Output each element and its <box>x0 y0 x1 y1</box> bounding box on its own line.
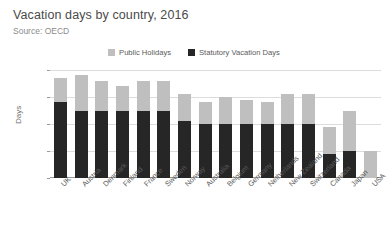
legend-swatch-public-holidays <box>108 49 115 56</box>
bar-segment-statutory-vacation-days[interactable] <box>54 102 67 178</box>
bar-group[interactable] <box>174 70 195 178</box>
x-axis-label-slot: New Zealand <box>278 180 299 226</box>
bar-segment-public-holidays[interactable] <box>137 81 150 111</box>
y-axis-tick-mark <box>47 178 50 179</box>
bar-group[interactable] <box>340 70 361 178</box>
x-axis-label-slot: France <box>133 180 154 226</box>
x-axis-label-slot: Belgium <box>216 180 237 226</box>
legend-item-statutory-vacation-days[interactable]: Statutory Vacation Days <box>188 48 280 57</box>
bar-segment-public-holidays[interactable] <box>199 102 212 124</box>
chart-legend: Public Holidays Statutory Vacation Days <box>0 48 388 57</box>
x-axis-label-slot: UK <box>50 180 71 226</box>
bar-segment-public-holidays[interactable] <box>343 111 356 152</box>
bar-group[interactable] <box>71 70 92 178</box>
bar-segment-public-holidays[interactable] <box>75 75 88 110</box>
x-axis-label-slot: Finland <box>112 180 133 226</box>
chart-title: Vacation days by country, 2016 <box>13 8 189 22</box>
y-axis-title: Days <box>14 106 23 124</box>
bar-group[interactable] <box>195 70 216 178</box>
x-axis-label-slot: Netherlands <box>257 180 278 226</box>
bar-segment-public-holidays[interactable] <box>240 100 253 124</box>
stacked-bar[interactable] <box>137 81 150 178</box>
x-axis-labels: UKAustriaDenmarkFinlandFranceSwedenNorwa… <box>50 180 381 226</box>
x-axis-label-slot: Japan <box>340 180 361 226</box>
vacation-days-chart: Vacation days by country, 2016 Source: O… <box>0 0 388 228</box>
bar-segment-public-holidays[interactable] <box>157 81 170 111</box>
x-axis-label-slot: Norway <box>174 180 195 226</box>
legend-swatch-statutory-vacation-days <box>188 49 195 56</box>
bar-group[interactable] <box>216 70 237 178</box>
stacked-bar[interactable] <box>75 75 88 178</box>
bar-group[interactable] <box>360 70 381 178</box>
bar-group[interactable] <box>153 70 174 178</box>
chart-source-subtitle: Source: OECD <box>13 26 69 36</box>
bar-segment-public-holidays[interactable] <box>54 78 67 102</box>
x-axis-label-slot: Denmark <box>91 180 112 226</box>
x-axis-label-slot: Switzerland <box>298 180 319 226</box>
bar-segment-public-holidays[interactable] <box>116 86 129 110</box>
bar-segment-public-holidays[interactable] <box>219 97 232 124</box>
bar-segment-public-holidays[interactable] <box>281 94 294 124</box>
x-axis-label-slot: Austria <box>71 180 92 226</box>
bar-group[interactable] <box>236 70 257 178</box>
bar-group[interactable] <box>50 70 71 178</box>
bar-segment-statutory-vacation-days[interactable] <box>75 111 88 179</box>
bar-segment-public-holidays[interactable] <box>323 127 336 154</box>
x-axis-label-slot: Canada <box>319 180 340 226</box>
bar-segment-public-holidays[interactable] <box>178 94 191 121</box>
legend-item-public-holidays[interactable]: Public Holidays <box>108 48 171 57</box>
stacked-bar[interactable] <box>157 81 170 178</box>
x-axis-label-slot: Sweden <box>153 180 174 226</box>
legend-label-public-holidays: Public Holidays <box>119 48 171 57</box>
bar-segment-public-holidays[interactable] <box>302 94 315 124</box>
x-axis-label-slot: USA <box>360 180 381 226</box>
stacked-bar[interactable] <box>95 81 108 178</box>
x-axis-label-slot: Germany <box>236 180 257 226</box>
stacked-bar[interactable] <box>54 78 67 178</box>
bar-group[interactable] <box>133 70 154 178</box>
x-axis-label-slot: Australia <box>195 180 216 226</box>
legend-label-statutory-vacation-days: Statutory Vacation Days <box>199 48 280 57</box>
bar-segment-public-holidays[interactable] <box>95 81 108 111</box>
bar-group[interactable] <box>91 70 112 178</box>
bar-segment-public-holidays[interactable] <box>261 102 274 124</box>
